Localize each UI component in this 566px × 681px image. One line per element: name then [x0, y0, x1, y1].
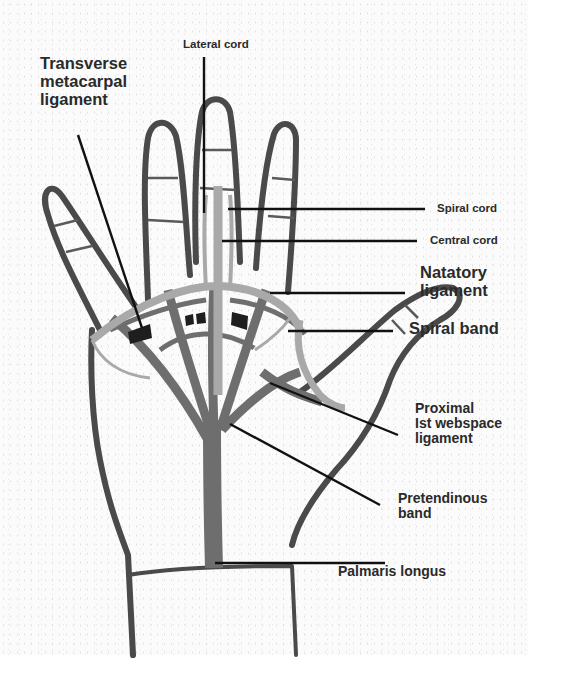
label-spiral-cord: Spiral cord	[437, 202, 497, 214]
little-finger-outline	[45, 189, 138, 330]
label-proximal-1st-webspace-ligament: Proximal Ist webspace ligament	[415, 401, 502, 446]
wrist-crease	[128, 566, 296, 655]
label-lateral-cord: Lateral cord	[183, 38, 249, 50]
label-spiral-band: Spiral band	[409, 320, 499, 338]
ulnar-edge-outline	[91, 330, 133, 655]
leader-pretendinous-band	[230, 424, 380, 505]
label-natatory-ligament: Natatory ligament	[420, 264, 488, 300]
label-pretendinous-band: Pretendinous band	[398, 491, 487, 521]
label-palmaris-longus: Palmaris longus	[338, 564, 446, 579]
label-transverse-metacarpal-ligament: Transverse metacarpal ligament	[40, 55, 127, 108]
palmaris-longus-tendon	[212, 420, 214, 568]
ring-finger-outline	[145, 123, 190, 300]
diagram-canvas: Transverse metacarpal ligament Lateral c…	[0, 0, 566, 681]
label-central-cord: Central cord	[430, 234, 498, 246]
